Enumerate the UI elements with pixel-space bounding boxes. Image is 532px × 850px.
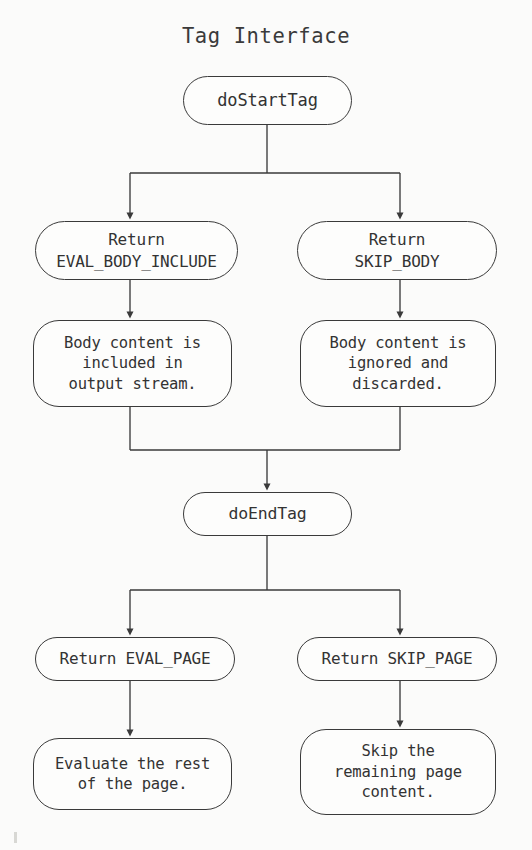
node-body-content-ignored[interactable]: Body content is ignored and discarded. — [300, 320, 496, 407]
node-do-start-tag[interactable]: doStartTag — [183, 76, 352, 125]
node-return-eval-body-include-label: Return EVAL_BODY_INCLUDE — [36, 229, 237, 271]
flow-connectors — [0, 0, 532, 850]
scan-artifact — [14, 832, 17, 843]
node-body-content-included-label: Body content is included in output strea… — [34, 333, 231, 394]
node-body-content-included[interactable]: Body content is included in output strea… — [33, 320, 232, 407]
node-return-skip-body-label: Return SKIP_BODY — [298, 229, 496, 271]
node-return-skip-page[interactable]: Return SKIP_PAGE — [297, 637, 497, 681]
node-return-eval-page[interactable]: Return EVAL_PAGE — [35, 637, 235, 681]
node-return-eval-page-label: Return EVAL_PAGE — [36, 648, 234, 669]
node-return-skip-body[interactable]: Return SKIP_BODY — [297, 221, 497, 280]
node-do-start-tag-label: doStartTag — [184, 89, 351, 111]
node-do-end-tag-label: doEndTag — [184, 503, 351, 525]
node-body-content-ignored-label: Body content is ignored and discarded. — [301, 333, 495, 394]
node-evaluate-rest-of-page-label: Evaluate the rest of the page. — [34, 754, 231, 795]
node-do-end-tag[interactable]: doEndTag — [183, 492, 352, 536]
node-return-eval-body-include[interactable]: Return EVAL_BODY_INCLUDE — [35, 221, 238, 280]
node-skip-remaining-page-content-label: Skip the remaining page content. — [301, 741, 495, 802]
node-evaluate-rest-of-page[interactable]: Evaluate the rest of the page. — [33, 738, 232, 810]
node-skip-remaining-page-content[interactable]: Skip the remaining page content. — [300, 729, 496, 815]
tag-interface-flowchart: Tag Interface — [0, 0, 532, 850]
node-return-skip-page-label: Return SKIP_PAGE — [298, 648, 496, 669]
